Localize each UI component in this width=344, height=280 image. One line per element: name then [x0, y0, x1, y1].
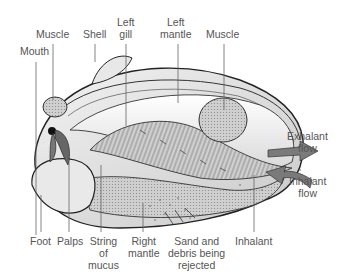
label-exhalant-flow-line1: Exhalant: [287, 130, 328, 142]
label-muscle-rear: Muscle: [206, 28, 239, 40]
anterior-muscle: [43, 97, 67, 117]
label-inhalant-flow-line1: Inhalant: [289, 175, 326, 187]
posterior-muscle: [199, 98, 247, 142]
label-sand-debris-line3: rejected: [168, 259, 225, 271]
label-string-of-mucus-line3: mucus: [88, 259, 119, 271]
label-shell: Shell: [83, 28, 106, 40]
label-string-of-mucus-line2: of: [88, 247, 119, 259]
label-left-mantle-line1: Left: [160, 16, 192, 28]
label-right-mantle: Right mantle: [128, 235, 160, 259]
label-left-mantle-line2: mantle: [160, 28, 192, 40]
label-palps: Palps: [57, 235, 83, 247]
label-inhalant-flow: Inhalant flow: [289, 175, 326, 199]
label-inhalant: Inhalant: [235, 235, 272, 247]
label-sand-debris-line2: debris being: [168, 247, 225, 259]
label-string-of-mucus-line1: String: [88, 235, 119, 247]
label-exhalant-flow-line2: flow: [287, 142, 328, 154]
label-left-gill: Left gill: [117, 16, 135, 40]
label-sand-debris: Sand and debris being rejected: [168, 235, 225, 271]
clam-anatomy-diagram: Mouth Muscle Shell Left gill Left mantle…: [0, 0, 344, 280]
label-mouth: Mouth: [20, 45, 49, 57]
label-inhalant-flow-line2: flow: [289, 187, 326, 199]
label-right-mantle-line1: Right: [128, 235, 160, 247]
label-muscle-front: Muscle: [36, 28, 69, 40]
label-foot: Foot: [30, 235, 51, 247]
label-exhalant-flow: Exhalant flow: [287, 130, 328, 154]
label-left-gill-line2: gill: [117, 28, 135, 40]
label-string-of-mucus: String of mucus: [88, 235, 119, 271]
label-right-mantle-line2: mantle: [128, 247, 160, 259]
label-sand-debris-line1: Sand and: [168, 235, 225, 247]
label-left-mantle: Left mantle: [160, 16, 192, 40]
label-left-gill-line1: Left: [117, 16, 135, 28]
